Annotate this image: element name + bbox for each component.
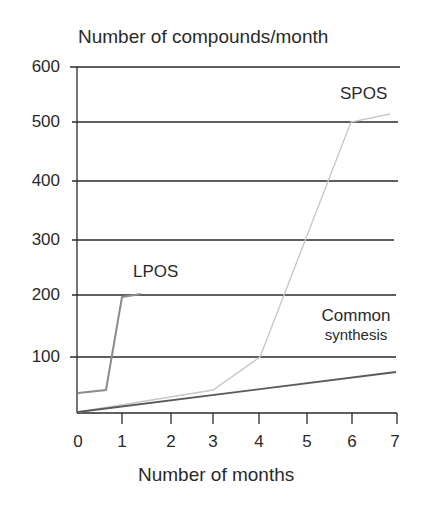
- annotation-spos: SPOS: [340, 84, 387, 104]
- x-tick-3: 3: [203, 432, 223, 452]
- y-tick-100: 100: [0, 347, 60, 367]
- y-tick-600: 600: [0, 57, 60, 77]
- x-tick-7: 7: [385, 432, 405, 452]
- x-tick-4: 4: [249, 432, 269, 452]
- x-tick-5: 5: [297, 432, 317, 452]
- annotation-common-line1: Common: [311, 306, 401, 325]
- x-tick-0: 0: [68, 432, 88, 452]
- series-spos: [78, 114, 390, 412]
- y-tick-300: 300: [0, 230, 60, 250]
- y-tick-500: 500: [0, 112, 60, 132]
- x-tick-1: 1: [112, 432, 132, 452]
- axes: [77, 67, 397, 424]
- x-tick-6: 6: [342, 432, 362, 452]
- series-common-synthesis: [78, 372, 396, 412]
- y-tick-200: 200: [0, 285, 60, 305]
- annotation-lpos: LPOS: [133, 262, 178, 282]
- series-lpos: [78, 294, 141, 393]
- annotation-common-synthesis: Common synthesis: [311, 306, 401, 344]
- x-tick-2: 2: [161, 432, 181, 452]
- annotation-common-line2: synthesis: [311, 325, 401, 344]
- y-tick-400: 400: [0, 171, 60, 191]
- x-axis-label: Number of months: [138, 464, 294, 486]
